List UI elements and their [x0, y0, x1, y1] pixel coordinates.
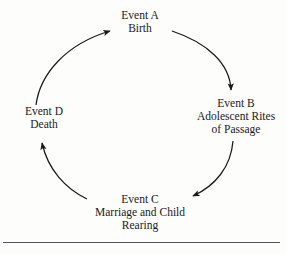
node-event-d: Event D Death — [4, 105, 84, 131]
node-event-a-line-1: Event A — [90, 9, 190, 22]
node-event-c-line-3: Rearing — [78, 219, 202, 232]
node-event-b-line-3: of Passage — [186, 123, 286, 136]
node-event-d-line-1: Event D — [4, 105, 84, 118]
arrow-b-to-c — [193, 141, 233, 196]
node-event-c-line-1: Event C — [78, 193, 202, 206]
node-event-b-line-1: Event B — [186, 97, 286, 110]
arrow-a-to-b — [172, 31, 231, 90]
node-event-c-line-2: Marriage and Child — [78, 206, 202, 219]
node-event-d-line-2: Death — [4, 118, 84, 131]
node-event-a: Event A Birth — [90, 9, 190, 35]
node-event-a-line-2: Birth — [90, 22, 190, 35]
arrow-c-to-d — [42, 143, 87, 199]
node-event-b: Event B Adolescent Rites of Passage — [186, 97, 286, 136]
node-event-c: Event C Marriage and Child Rearing — [78, 193, 202, 232]
figure-canvas: Event A Birth Event B Adolescent Rites o… — [0, 0, 287, 255]
node-event-b-line-2: Adolescent Rites — [186, 110, 286, 123]
arrow-d-to-a — [36, 31, 110, 105]
footer-rule — [3, 242, 280, 243]
